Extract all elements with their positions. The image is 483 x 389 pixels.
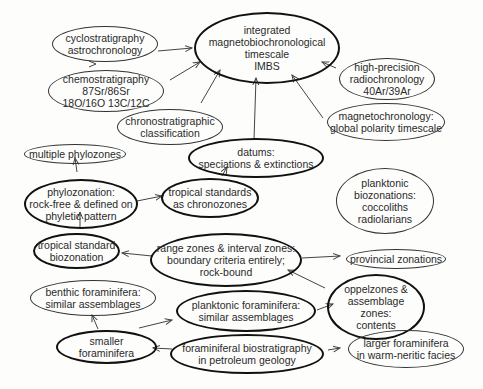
node-planktonic-biozonations: planktonic biozonations: coccoliths radi… bbox=[336, 168, 434, 234]
node-imbs: integrated magnetobiochronological times… bbox=[194, 12, 340, 84]
node-tropical-chronozones: tropical standards as chronozones bbox=[161, 178, 259, 218]
node-larger-foraminifera: larger foraminifera in warm-neritic faci… bbox=[348, 330, 464, 368]
node-tropical-biozonation: tropical standard biozonation bbox=[33, 233, 120, 269]
node-magnetochronology: magnetochronology: global polarity times… bbox=[327, 103, 445, 141]
node-datums: datums: speciations & extinctions bbox=[188, 138, 324, 178]
node-multiple-phylozones: multiple phylozones bbox=[24, 144, 126, 164]
node-cyclostratigraphy: cyclostratigraphy astrochronology bbox=[52, 26, 158, 62]
node-provincial-zonations: provincial zonations bbox=[346, 249, 446, 269]
node-range-zones: range zones & interval zones: boundary c… bbox=[150, 233, 302, 287]
node-smaller-foraminifera: smaller foraminifera bbox=[56, 330, 157, 364]
node-foraminiferal-petroleum: foraminiferal biostratigraphy in petrole… bbox=[170, 334, 324, 374]
node-planktonic-foraminifera: planktonic foraminifera: similar assembl… bbox=[176, 290, 316, 332]
node-benthic-foraminifera: benthic foraminifera: similar assemblage… bbox=[30, 280, 156, 316]
node-phylozonation: phylozonation: rock-free & defined on ph… bbox=[24, 179, 138, 229]
node-chronostratigraphic: chronostratigraphic classification bbox=[117, 109, 223, 145]
node-chemostratigraphy: chemostratigraphy 87Sr/86Sr 18O/16O 13C/… bbox=[48, 70, 164, 112]
node-radiochronology: high-precision radiochronology 40Ar/39Ar bbox=[339, 58, 435, 100]
